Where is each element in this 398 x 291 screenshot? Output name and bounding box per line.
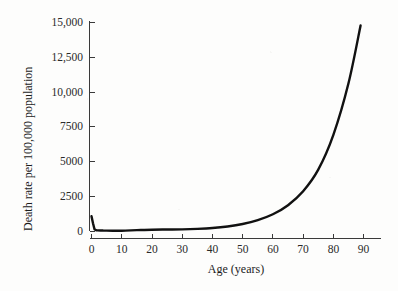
y-tick-label-10000: 10,000 [51, 86, 83, 99]
y-tick-label-15000: 15,000 [51, 16, 83, 29]
y-tick-marks [90, 22, 95, 231]
x-tick-label-40: 40 [207, 243, 219, 255]
x-tick-label-10: 10 [116, 243, 128, 255]
x-tick-label-70: 70 [297, 243, 309, 255]
x-tick-label-0: 0 [89, 243, 95, 255]
x-tick-label-90: 90 [358, 243, 370, 255]
chart-figure: Death rate per 100,000 population 15,000… [0, 0, 398, 291]
y-tick-labels: 15,000 12,500 10,000 7500 5000 2500 0 [51, 16, 83, 237]
x-tick-label-50: 50 [237, 243, 249, 255]
y-tick-label-12500: 12,500 [51, 51, 83, 64]
x-tick-label-30: 30 [176, 243, 188, 255]
x-tick-label-20: 20 [146, 243, 158, 255]
y-tick-label-5000: 5000 [60, 155, 83, 167]
death-rate-curve [92, 25, 361, 230]
y-tick-label-0: 0 [77, 225, 83, 237]
x-tick-label-80: 80 [328, 243, 340, 255]
x-tick-label-60: 60 [267, 243, 279, 255]
x-tick-marks [92, 234, 364, 239]
x-axis-title: Age (years) [208, 262, 264, 276]
y-tick-label-2500: 2500 [60, 190, 83, 202]
y-axis-title: Death rate per 100,000 population [21, 67, 35, 231]
death-rate-by-age-chart: Death rate per 100,000 population 15,000… [0, 0, 398, 291]
x-tick-labels: 0 10 20 30 40 50 60 70 80 90 [89, 243, 370, 255]
y-tick-label-7500: 7500 [60, 120, 83, 132]
